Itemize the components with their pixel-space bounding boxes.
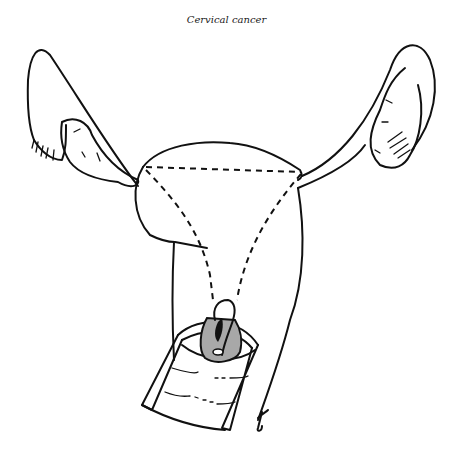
cervix-tumor [201, 300, 242, 362]
left-fallopian-tube [28, 50, 138, 186]
uterus-body [135, 142, 302, 420]
right-fallopian-tube [298, 45, 435, 188]
uterine-cavity-outline [146, 167, 301, 300]
left-ovary [61, 119, 138, 186]
right-ovary [371, 68, 422, 168]
artist-signature [258, 410, 268, 431]
uterus-illustration [0, 0, 453, 453]
